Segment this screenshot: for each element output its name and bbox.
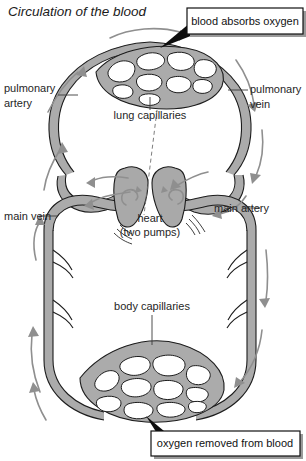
label-lung-capillaries: lung capillaries bbox=[114, 109, 187, 121]
label-pulmonary-vein-line2: vein bbox=[250, 98, 270, 110]
label-pulmonary-artery-line1: pulmonary bbox=[4, 82, 56, 94]
label-heart: heart bbox=[137, 212, 162, 224]
diagram-canvas: Circulation of the blood bbox=[0, 0, 306, 461]
label-main-artery: main artery bbox=[214, 202, 270, 214]
label-pulmonary-artery-line2: artery bbox=[4, 97, 33, 109]
label-body-capillaries: body capillaries bbox=[114, 300, 190, 312]
label-main-vein: main vein bbox=[4, 210, 51, 222]
label-pulmonary-vein-line1: pulmonary bbox=[250, 83, 302, 95]
circulation-diagram: Circulation of the blood bbox=[0, 0, 306, 461]
callout-oxygen-removed-from-blood: oxygen removed from blood bbox=[146, 416, 303, 459]
page-title: Circulation of the blood bbox=[8, 4, 147, 19]
label-heart-two-pumps: (two pumps) bbox=[120, 226, 181, 238]
callout-blood-absorbs-oxygen: blood absorbs oxygen bbox=[160, 8, 306, 48]
callout-top-text: blood absorbs oxygen bbox=[191, 15, 299, 27]
callout-bottom-text: oxygen removed from blood bbox=[157, 437, 293, 449]
body-capillaries-mesh bbox=[80, 341, 224, 422]
